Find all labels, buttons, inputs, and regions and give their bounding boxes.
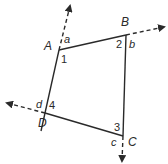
interior-angle-1: 1 (61, 53, 67, 65)
vertex-label-b: B (121, 15, 129, 29)
side-cd (45, 113, 123, 136)
interior-angle-2: 2 (116, 38, 122, 50)
exterior-angle-a: a (64, 33, 70, 45)
quadrilateral-exterior-angles-diagram: A B C D 1 2 3 4 a b c d (0, 0, 168, 164)
extension-bc-beyond-c (122, 136, 123, 161)
exterior-angle-d: d (36, 98, 43, 110)
vertex-label-d: D (38, 116, 47, 130)
extension-ab-beyond-b (126, 27, 164, 35)
vertex-label-a: A (43, 39, 52, 53)
side-bc (123, 35, 126, 136)
exterior-angle-c: c (111, 136, 117, 148)
exterior-angle-b: b (129, 38, 135, 50)
vertex-label-c: C (128, 135, 137, 149)
interior-angle-4: 4 (49, 99, 55, 111)
interior-angle-3: 3 (114, 121, 120, 133)
dashed-extensions (7, 6, 164, 161)
